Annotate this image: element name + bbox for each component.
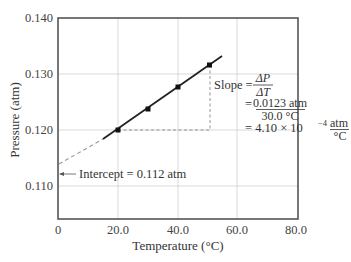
eq2-denominator: °C — [334, 129, 347, 143]
extrapolation-line — [59, 139, 103, 164]
x-tick: 40.0 — [167, 223, 189, 237]
data-point — [176, 85, 181, 90]
y-axis-ticks: 0.140 0.130 0.120 0.110 — [25, 11, 53, 193]
y-axis-label: Pressure (atm) — [7, 82, 22, 157]
y-tick: 0.110 — [25, 179, 53, 193]
x-tick: 20.0 — [107, 223, 129, 237]
x-axis-ticks: 0 20.0 40.0 60.0 80.0 — [55, 223, 307, 237]
eq1-numerator: 0.0123 atm — [253, 96, 308, 110]
eq1-prefix: = — [245, 97, 252, 111]
y-tick: 0.120 — [25, 123, 53, 137]
x-tick: 0 — [55, 223, 61, 237]
intercept-text: Intercept = 0.112 atm — [79, 167, 187, 181]
slope-label: Slope = — [214, 78, 253, 92]
eq2-numerator: atm — [330, 116, 349, 130]
y-tick: 0.130 — [25, 67, 53, 81]
data-point — [116, 128, 121, 133]
data-point — [146, 107, 151, 112]
data-point — [207, 63, 212, 68]
x-tick: 60.0 — [226, 223, 248, 237]
eq2-prefix: = 4.10 × 10 — [245, 121, 303, 135]
slope-annotation: Slope = ΔP ΔT = 0.0123 atm 30.0 °C = 4.1… — [214, 71, 349, 143]
intercept-annotation: Intercept = 0.112 atm — [59, 167, 187, 181]
pressure-temperature-chart: 0.140 0.130 0.120 0.110 0 20.0 40.0 60.0… — [0, 0, 351, 262]
slope-numerator: ΔP — [255, 71, 271, 85]
eq2-exponent: −4 — [318, 118, 328, 128]
y-tick: 0.140 — [25, 11, 53, 25]
x-tick: 80.0 — [285, 223, 307, 237]
x-axis-label: Temperature (°C) — [132, 238, 223, 253]
fit-line — [103, 56, 222, 139]
